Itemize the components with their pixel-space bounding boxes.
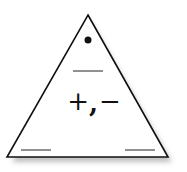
minus-symbol: − (99, 88, 121, 114)
fact-family-triangle-card: +,− (0, 0, 187, 172)
triangle-graphic (0, 0, 187, 172)
comma-separator: , (89, 90, 98, 116)
operation-symbols: +,− (64, 88, 124, 116)
plus-symbol: + (67, 88, 89, 114)
dot-marker-icon (85, 37, 92, 44)
